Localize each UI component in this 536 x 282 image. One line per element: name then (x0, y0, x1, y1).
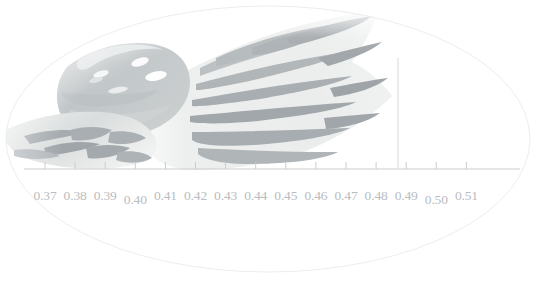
figure-canvas: 0.370.380.390.400.410.420.430.440.450.46… (0, 0, 536, 282)
specimen-figure (0, 0, 536, 282)
edge-vignette (0, 0, 536, 282)
specimen-photo-group (0, 0, 536, 282)
